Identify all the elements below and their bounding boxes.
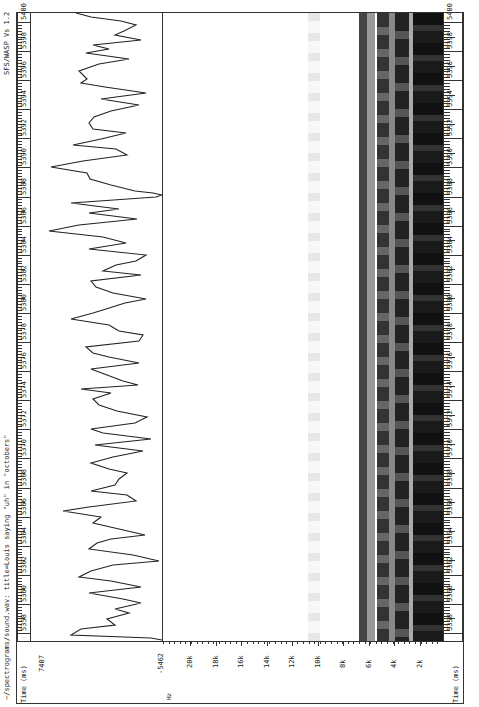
freq-minor-tick [213, 641, 214, 644]
freq-tick-label: 2k [416, 660, 424, 668]
freq-tick-label: 4k [390, 660, 398, 668]
freq-minor-tick [247, 641, 248, 644]
waveform-max-label: 7407 [38, 655, 46, 672]
ruler-tick [18, 199, 22, 200]
freq-minor-tick [320, 641, 321, 644]
freq-minor-tick [387, 641, 388, 644]
ruler-label: 5360 [20, 585, 28, 602]
ruler-tick [18, 490, 22, 491]
ruler-tick [18, 170, 22, 171]
ruler-label: 5398 [20, 32, 28, 49]
freq-minor-tick [393, 641, 394, 644]
freq-minor-tick [314, 641, 315, 644]
freq-tick-label: 10k [314, 655, 322, 668]
ruler-label: 5360 [446, 585, 454, 602]
ruler-tick [18, 432, 22, 433]
ruler-tick [444, 429, 462, 430]
freq-minor-tick [236, 641, 237, 644]
ruler-tick [444, 231, 450, 232]
freq-minor-tick [241, 641, 242, 644]
spectrogram-panel[interactable] [163, 13, 443, 641]
waveform-panel[interactable] [31, 13, 162, 641]
ruler-label: 5386 [446, 207, 454, 224]
freq-tick [318, 641, 319, 646]
ruler-label: 5366 [446, 498, 454, 515]
ruler-tick [18, 284, 30, 285]
ruler-label: 5374 [446, 381, 454, 398]
ruler-tick [18, 400, 30, 401]
ruler-label: 5362 [446, 556, 454, 573]
ruler-label: 5398 [446, 32, 454, 49]
ruler-tick [444, 173, 450, 174]
waveform-min-label: -5462 [157, 653, 165, 674]
ruler-label: 5392 [20, 120, 28, 137]
ruler-tick [18, 575, 30, 576]
ruler-tick [444, 197, 462, 198]
ruler-tick [444, 176, 450, 177]
ruler-label: 5358 [20, 614, 28, 631]
spectrogram-band [413, 13, 443, 641]
freq-tick [267, 641, 268, 646]
ruler-tick [444, 549, 450, 550]
ruler-tick [18, 458, 30, 459]
ruler-label: 5378 [20, 323, 28, 340]
ruler-tick [18, 167, 30, 168]
ruler-label: 5386 [20, 207, 28, 224]
ruler-tick [444, 406, 450, 407]
ruler-tick [18, 435, 22, 436]
freq-tick-label: 8k [339, 660, 347, 668]
ruler-label: 5370 [20, 440, 28, 457]
ruler-tick [444, 170, 450, 171]
ruler-tick [444, 377, 450, 378]
ruler-tick [444, 575, 462, 576]
ruler-tick [444, 313, 462, 314]
ruler-tick [444, 144, 450, 145]
freq-minor-tick [426, 641, 427, 644]
ruler-tick [18, 205, 22, 206]
ruler-tick [18, 51, 30, 52]
ruler-tick [18, 255, 30, 256]
ruler-tick [18, 581, 22, 582]
ruler-tick [444, 290, 450, 291]
freq-minor-tick [437, 641, 438, 644]
ruler-tick [18, 488, 30, 489]
freq-tick-label: 14k [263, 655, 271, 668]
ruler-label: 5380 [446, 294, 454, 311]
freq-minor-tick [325, 641, 326, 644]
ruler-tick [18, 57, 22, 58]
ruler-tick [444, 604, 462, 605]
freq-tick [394, 641, 395, 646]
ruler-tick [444, 345, 450, 346]
ruler-tick [444, 138, 462, 139]
ruler-tick [18, 290, 22, 291]
freq-minor-tick [359, 641, 360, 644]
ruler-tick [444, 284, 462, 285]
ruler-tick [444, 546, 462, 547]
time-ruler-top[interactable]: 5358536053625364536653685370537253745376… [17, 13, 31, 641]
ruler-tick [444, 141, 450, 142]
ruler-label: 5396 [20, 61, 28, 78]
ruler-tick [18, 342, 30, 343]
ruler-tick [444, 490, 450, 491]
ruler-tick [18, 144, 22, 145]
ruler-label: 5400 [446, 3, 454, 20]
ruler-tick [18, 141, 22, 142]
ruler-label: 5390 [20, 149, 28, 166]
freq-minor-tick [409, 641, 410, 644]
ruler-tick [444, 371, 462, 372]
ruler-tick [444, 464, 450, 465]
ruler-label: 5368 [446, 469, 454, 486]
freq-minor-tick [381, 641, 382, 644]
ruler-tick [444, 86, 450, 87]
freq-tick-label: 20k [186, 655, 194, 668]
ruler-label: 5364 [20, 527, 28, 544]
freq-minor-tick [286, 641, 287, 644]
ruler-tick [18, 86, 22, 87]
ruler-label: 5384 [20, 236, 28, 253]
ruler-label: 5388 [446, 178, 454, 195]
time-ruler-bottom[interactable]: 5358536053625364536653685370537253745376… [443, 13, 463, 641]
freq-minor-tick [281, 641, 282, 644]
freq-minor-tick [169, 641, 170, 644]
ruler-tick [18, 496, 22, 497]
ruler-tick [444, 28, 450, 29]
